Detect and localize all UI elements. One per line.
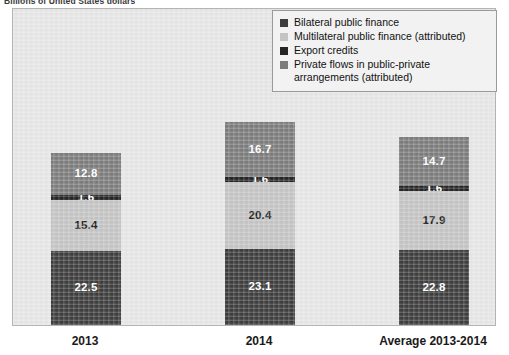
legend-item[interactable]: Export credits xyxy=(280,44,489,57)
bar-segment[interactable]: 17.9 xyxy=(399,191,469,250)
legend-swatch-icon xyxy=(280,33,288,41)
legend-item-label: Export credits xyxy=(294,44,358,57)
bar-segment-value: 20.4 xyxy=(248,210,271,222)
legend-item[interactable]: Private flows in public-private arrangem… xyxy=(280,58,489,84)
legend-swatch-icon xyxy=(280,47,288,55)
bar-segment-value: 12.8 xyxy=(74,168,97,180)
bar-segment-value: 23.1 xyxy=(248,281,271,293)
legend-item[interactable]: Bilateral public finance xyxy=(280,16,489,29)
bar-segment[interactable]: 23.1 xyxy=(225,249,295,325)
category-label: Average 2013-2014 xyxy=(379,334,487,348)
bar-stack[interactable]: 14.71.617.922.8 xyxy=(399,137,469,325)
stacked-bar-chart-figure: Billions of United States dollars 12.81.… xyxy=(0,0,509,355)
bar-stack[interactable]: 12.81.615.422.5 xyxy=(51,153,121,325)
bar-segment-value: 15.4 xyxy=(74,220,97,232)
legend-swatch-icon xyxy=(280,19,288,27)
bar-segment-value: 22.8 xyxy=(422,282,445,294)
legend-item-label: Private flows in public-private arrangem… xyxy=(294,58,489,84)
bar-segment-value: 17.9 xyxy=(422,215,445,227)
chart-axis-title: Billions of United States dollars xyxy=(4,0,135,5)
legend-swatch-icon xyxy=(280,61,288,69)
bar-segment[interactable]: 22.8 xyxy=(399,250,469,325)
bar-segment[interactable]: 22.5 xyxy=(51,251,121,325)
bar-segment[interactable]: 20.4 xyxy=(225,182,295,249)
bar-stack[interactable]: 16.71.620.423.1 xyxy=(225,122,295,325)
category-label: 2013 xyxy=(72,334,99,348)
legend-item[interactable]: Multilateral public finance (attributed) xyxy=(280,30,489,43)
category-label: 2014 xyxy=(246,334,273,348)
bar-segment-value: 16.7 xyxy=(248,144,271,156)
bar-segment[interactable]: 16.7 xyxy=(225,122,295,177)
legend-item-label: Bilateral public finance xyxy=(294,16,399,29)
bar-segment-value: 22.5 xyxy=(74,282,97,294)
bar-segment[interactable]: 15.4 xyxy=(51,200,121,251)
chart-legend: Bilateral public financeMultilateral pub… xyxy=(272,10,497,92)
bar-segment[interactable]: 14.7 xyxy=(399,137,469,186)
bar-segment[interactable]: 12.8 xyxy=(51,153,121,195)
legend-item-label: Multilateral public finance (attributed) xyxy=(294,30,466,43)
bar-segment-value: 14.7 xyxy=(422,156,445,168)
